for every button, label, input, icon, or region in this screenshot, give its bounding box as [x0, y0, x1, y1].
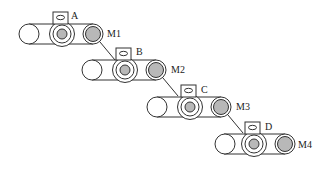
motor-label-m4: M4 [298, 140, 312, 150]
connector-line [100, 42, 115, 60]
module-label-a: A [71, 11, 78, 21]
module-c [147, 85, 231, 120]
connector-line [163, 78, 178, 96]
motor-label-m2: M2 [171, 65, 185, 75]
module-d [215, 122, 295, 157]
conveyor-diagram: A M1 B M2 C M3 D M4 [0, 0, 327, 172]
sensor-box-icon [53, 12, 68, 24]
motor-label-m1: M1 [107, 29, 121, 39]
idler-pulley-icon [19, 24, 39, 44]
module-a [19, 12, 103, 47]
motor-label-m3: M3 [236, 102, 250, 112]
module-b [82, 48, 166, 83]
diagram-canvas [0, 0, 327, 172]
module-label-d: D [265, 122, 272, 132]
module-label-b: B [136, 47, 143, 57]
module-label-c: C [201, 85, 208, 95]
connector-line [228, 115, 243, 133]
